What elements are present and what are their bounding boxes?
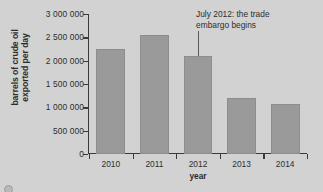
bar-2014 [271,104,300,154]
x-axis-tick-mark [220,154,221,159]
y-axis-tick-label: 0 [24,149,84,159]
annotation-text: July 2012: the trade embargo begins [196,9,321,30]
y-axis-tick-labels: 0500 0001 000 0001 500 0002 000 0002 500… [24,11,84,151]
x-axis-tick-label-2014: 2014 [276,159,295,169]
x-axis-tick-label-2011: 2011 [145,159,163,169]
y-axis-tick-mark [83,37,88,38]
bar-2012 [184,56,213,154]
y-axis-tick-mark [83,14,88,15]
x-axis-tick-mark [133,154,134,159]
x-axis-tick-mark [307,154,308,159]
x-axis-tick-label-2012: 2012 [189,159,208,169]
annotation-line-1: July 2012: the trade [196,9,321,20]
bar-2013 [227,98,256,154]
circle-badge-icon [4,185,13,192]
y-axis-tick-label: 1 500 000 [24,79,84,89]
y-axis-tick-label: 2 500 000 [24,32,84,42]
annotation-line-2: embargo begins [196,20,321,31]
x-axis-tick-label-2010: 2010 [101,159,120,169]
y-axis-title-line-1: barrels of crude oil [10,3,20,131]
x-axis-tick-mark [263,154,264,159]
x-axis-title: year [89,171,307,181]
y-axis-tick-mark [83,131,88,132]
x-axis-tick-mark [89,154,90,159]
y-axis-tick-label: 1 000 000 [24,102,84,112]
x-axis-tick-label-2013: 2013 [232,159,251,169]
y-axis-tick-label: 3 000 000 [24,9,84,19]
y-axis-tick-mark [83,61,88,62]
y-axis-tick-mark [83,107,88,108]
y-axis-tick-label: 500 000 [24,126,84,136]
bar-2010 [96,49,125,154]
annotation-leader-line [198,31,199,56]
footer-strip [0,182,323,192]
y-axis-tick-mark [83,154,88,155]
y-axis-tick-label: 2 000 000 [24,56,84,66]
y-axis-tick-mark [83,84,88,85]
bar-2011 [140,35,169,154]
bar-chart-figure: barrels of crude oil exported per day 05… [0,0,323,192]
x-axis-tick-mark [176,154,177,159]
